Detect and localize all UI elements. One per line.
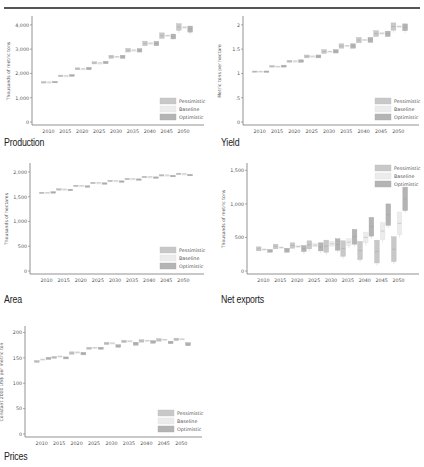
- legend-swatch-optimistic: [158, 426, 174, 432]
- y-tick-label: 1,000: [15, 96, 29, 101]
- yield-title: Yield: [221, 137, 239, 148]
- legend-label-baseline: Baseline: [179, 256, 199, 261]
- legend: PessimisticBaselineOptimistic: [375, 165, 421, 187]
- y-tick-label: 100: [13, 381, 22, 386]
- y-tick-label: 150: [13, 356, 22, 361]
- legend: PessimisticBaselineOptimistic: [158, 410, 204, 432]
- area-title: Area: [4, 294, 22, 305]
- x-tick-label: 2010: [42, 129, 54, 134]
- production-plot: 01,0002,0003,0004,000Thousands of metric…: [0, 10, 212, 135]
- x-tick-label: 2015: [271, 129, 283, 134]
- y-tick-label: 1: [237, 71, 240, 76]
- range-bar-baseline: [345, 45, 350, 46]
- x-tick-label: 2015: [53, 441, 65, 446]
- y-tick-label: 0: [241, 269, 244, 274]
- range-bar-pessimistic: [108, 180, 113, 181]
- y-tick-label: 1.5: [232, 47, 240, 52]
- cut-off-header-text: — — —: [80, 0, 105, 2]
- y-axis-label: Thousands of hectares: [4, 192, 9, 246]
- x-tick-label: 2020: [76, 129, 88, 134]
- y-axis-label: Constant 2000 US$ per metric ton: [0, 343, 4, 422]
- area-plot: 05001,0001,5002,000Thousands of hectares…: [0, 155, 212, 280]
- range-bar-optimistic: [102, 183, 107, 184]
- range-bar-pessimistic: [91, 182, 96, 183]
- range-bar-pessimistic: [252, 71, 257, 72]
- y-tick-label: 0: [237, 120, 240, 125]
- y-tick-label: 0: [26, 120, 29, 125]
- x-tick-label: 2050: [392, 129, 404, 134]
- legend-label-baseline: Baseline: [394, 107, 414, 112]
- x-tick-label: 2040: [143, 278, 155, 283]
- y-tick-label: 1,000: [13, 219, 27, 224]
- y-tick-label: .5: [235, 96, 240, 101]
- x-tick-label: 2015: [58, 278, 70, 283]
- x-tick-label: 2030: [110, 129, 122, 134]
- y-tick-label: 1,000: [230, 202, 244, 207]
- y-tick-label: 2,000: [15, 71, 29, 76]
- y-tick-label: 3,000: [15, 47, 29, 52]
- x-tick-label: 2045: [160, 278, 172, 283]
- legend-swatch-optimistic: [160, 263, 176, 269]
- area-chart: 05001,0001,5002,000Thousands of hectares…: [0, 155, 212, 280]
- x-tick-label: 2030: [325, 278, 337, 283]
- x-tick-label: 2045: [161, 129, 173, 134]
- y-tick-label: 0: [19, 432, 22, 437]
- x-tick-label: 2040: [140, 441, 152, 446]
- legend-label-pessimistic: Pessimistic: [394, 166, 421, 171]
- legend-swatch-pessimistic: [160, 98, 176, 104]
- x-tick-label: 2020: [291, 278, 303, 283]
- legend-swatch-baseline: [158, 418, 174, 424]
- y-tick-label: 200: [13, 330, 22, 335]
- x-tick-label: 2035: [123, 441, 135, 446]
- x-tick-label: 2020: [71, 441, 83, 446]
- legend-label-pessimistic: Pessimistic: [179, 248, 206, 253]
- x-tick-label: 2020: [75, 278, 87, 283]
- legend-label-optimistic: Optimistic: [394, 182, 419, 187]
- net-exports-chart: 05001,0001,500Thousands of metric tons20…: [212, 155, 424, 280]
- x-tick-label: 2010: [40, 278, 52, 283]
- legend-swatch-baseline: [375, 173, 391, 179]
- y-tick-label: 1,500: [230, 168, 244, 173]
- range-bar-optimistic: [264, 71, 269, 72]
- y-tick-label: 4,000: [15, 23, 29, 28]
- y-tick-label: 500: [18, 244, 27, 249]
- y-tick-label: 2,000: [13, 170, 27, 175]
- x-tick-label: 2020: [288, 129, 300, 134]
- x-tick-label: 2040: [358, 129, 370, 134]
- x-tick-label: 2025: [92, 278, 104, 283]
- yield-chart: 0.511.52Metric tons per hectare201020152…: [212, 10, 424, 135]
- x-tick-label: 2025: [308, 278, 320, 283]
- production-title: Production: [4, 137, 44, 148]
- y-tick-label: 0: [24, 269, 27, 274]
- x-tick-label: 2025: [306, 129, 318, 134]
- x-tick-label: 2030: [109, 278, 121, 283]
- prices-title: Prices: [4, 451, 27, 462]
- legend: PessimisticBaselineOptimistic: [160, 247, 206, 269]
- range-bar-optimistic: [154, 177, 159, 178]
- x-tick-label: 2040: [359, 278, 371, 283]
- legend-label-baseline: Baseline: [394, 174, 414, 179]
- range-bar-optimistic: [68, 189, 73, 190]
- legend-swatch-pessimistic: [158, 410, 174, 416]
- x-tick-label: 2015: [59, 129, 71, 134]
- legend-label-pessimistic: Pessimistic: [179, 99, 206, 104]
- y-tick-label: 500: [235, 235, 244, 240]
- x-tick-label: 2035: [340, 129, 352, 134]
- legend-swatch-pessimistic: [160, 247, 176, 253]
- production-chart: 01,0002,0003,0004,000Thousands of metric…: [0, 10, 212, 135]
- prices-chart: 050100150200Constant 2000 US$ per metric…: [0, 318, 212, 448]
- x-tick-label: 2030: [323, 129, 335, 134]
- legend-swatch-optimistic: [375, 181, 391, 187]
- x-tick-label: 2050: [175, 441, 187, 446]
- y-axis-label: Thousands of metric tons: [6, 41, 11, 101]
- y-axis-label: Metric tons per hectare: [217, 44, 222, 98]
- x-tick-label: 2010: [257, 278, 269, 283]
- x-tick-label: 2025: [88, 441, 100, 446]
- range-bar-optimistic: [136, 179, 141, 180]
- x-tick-label: 2010: [36, 441, 48, 446]
- range-bar-pessimistic: [74, 185, 79, 186]
- legend-label-pessimistic: Pessimistic: [177, 411, 204, 416]
- range-bar-baseline: [362, 39, 367, 40]
- x-tick-label: 2015: [274, 278, 286, 283]
- x-tick-label: 2050: [177, 278, 189, 283]
